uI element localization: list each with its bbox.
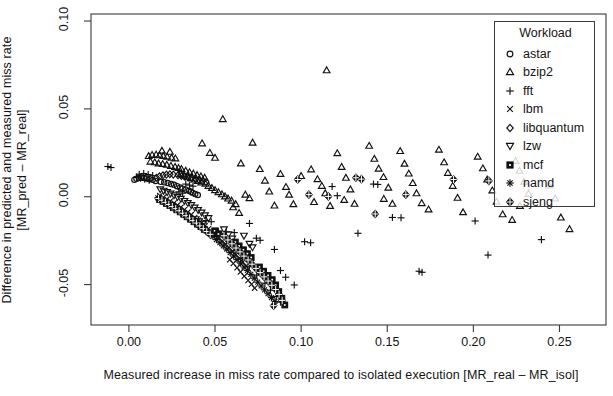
legend-item-label: astar bbox=[523, 47, 551, 61]
data-point bbox=[441, 159, 448, 165]
data-point bbox=[566, 226, 573, 232]
data-point bbox=[252, 285, 257, 290]
data-point bbox=[277, 267, 284, 274]
data-point bbox=[347, 186, 354, 192]
series-sjeng bbox=[155, 174, 492, 309]
diamond-icon bbox=[501, 119, 519, 136]
data-point bbox=[327, 203, 334, 209]
data-point bbox=[385, 184, 392, 190]
data-point bbox=[246, 220, 253, 227]
data-point bbox=[306, 191, 313, 198]
data-point bbox=[375, 165, 382, 171]
data-point bbox=[413, 190, 420, 196]
data-point bbox=[509, 217, 516, 223]
y-tick-label: 0.10 bbox=[47, 12, 81, 30]
data-point bbox=[290, 201, 297, 207]
data-point bbox=[389, 214, 396, 221]
data-point bbox=[334, 192, 341, 199]
data-point bbox=[389, 200, 396, 206]
data-point bbox=[358, 175, 365, 182]
data-point bbox=[308, 166, 315, 172]
data-point bbox=[405, 170, 412, 176]
plus-icon bbox=[501, 82, 519, 99]
legend-title: Workload bbox=[495, 26, 596, 40]
data-point bbox=[311, 199, 318, 205]
legend-item-lbm: lbm bbox=[501, 101, 543, 118]
data-point bbox=[425, 206, 432, 212]
data-point bbox=[449, 182, 456, 188]
data-point bbox=[409, 180, 416, 186]
data-point bbox=[445, 169, 452, 175]
data-point bbox=[351, 200, 358, 206]
data-point bbox=[338, 164, 345, 170]
y-tick-label: 0.00 bbox=[47, 188, 81, 206]
square-dot-icon bbox=[501, 156, 519, 173]
data-point bbox=[241, 233, 248, 239]
y-tick-label-text: 0.10 bbox=[57, 2, 71, 36]
data-point bbox=[249, 245, 256, 251]
y-tick-label-text: 0.00 bbox=[57, 178, 71, 212]
data-point bbox=[538, 236, 545, 243]
x-tick-label: 0.25 bbox=[547, 335, 571, 349]
data-point bbox=[484, 252, 491, 259]
triangle-down-icon bbox=[501, 138, 519, 155]
data-point bbox=[343, 174, 350, 180]
data-point bbox=[398, 214, 405, 221]
scatter-plot-figure: Difference in predicted and measured mis… bbox=[0, 0, 613, 396]
data-point bbox=[206, 149, 213, 155]
data-point bbox=[104, 163, 111, 170]
legend-item-label: lbm bbox=[523, 102, 543, 116]
data-point bbox=[499, 211, 506, 217]
data-point bbox=[380, 174, 387, 180]
data-point bbox=[450, 176, 457, 183]
data-point bbox=[479, 165, 486, 171]
data-point bbox=[249, 139, 256, 145]
data-point bbox=[366, 142, 373, 148]
data-point bbox=[325, 193, 332, 200]
x-tick-label: 0.20 bbox=[461, 335, 485, 349]
data-point bbox=[341, 197, 348, 203]
data-point bbox=[418, 200, 425, 206]
data-point bbox=[256, 166, 263, 172]
data-point bbox=[262, 177, 269, 183]
data-point bbox=[277, 171, 284, 177]
data-point bbox=[291, 281, 298, 288]
data-point bbox=[307, 239, 314, 246]
data-point bbox=[374, 181, 381, 188]
data-point bbox=[372, 210, 379, 217]
legend-item-astar: astar bbox=[501, 45, 551, 62]
data-point bbox=[246, 195, 253, 201]
data-point bbox=[334, 150, 341, 156]
legend-item-label: bzip2 bbox=[523, 65, 553, 79]
y-tick-label-text: 0.05 bbox=[57, 90, 71, 124]
data-point bbox=[159, 147, 166, 153]
data-point bbox=[472, 217, 479, 224]
cross-icon bbox=[501, 101, 519, 118]
data-point bbox=[380, 195, 387, 201]
circle-icon bbox=[501, 45, 519, 62]
y-tick-label-text: -0.05 bbox=[57, 266, 71, 300]
data-point bbox=[454, 194, 461, 200]
data-point bbox=[167, 148, 174, 154]
legend-item-mcf: mcf bbox=[501, 156, 543, 173]
data-point bbox=[436, 146, 443, 152]
data-point bbox=[314, 176, 321, 182]
legend-item-label: mcf bbox=[523, 158, 543, 172]
asterisk-icon bbox=[501, 175, 519, 192]
data-point bbox=[107, 164, 114, 171]
x-tick-label: 0.15 bbox=[375, 335, 399, 349]
legend-item-label: libquantum bbox=[523, 121, 584, 135]
data-point bbox=[460, 209, 467, 215]
legend-item-sjeng: sjeng bbox=[501, 193, 553, 210]
legend-box: Workload astarbzip2fftlbmlibquantumlzwmc… bbox=[494, 21, 595, 207]
data-point bbox=[403, 191, 410, 198]
data-point bbox=[329, 183, 336, 190]
data-point bbox=[236, 210, 243, 216]
legend-item-label: namd bbox=[523, 176, 554, 190]
legend-item-label: sjeng bbox=[523, 195, 553, 209]
x-tick-label: 0.05 bbox=[203, 335, 227, 349]
axis-ticks bbox=[84, 21, 559, 332]
diamond-plus-icon bbox=[501, 193, 519, 210]
data-point bbox=[219, 116, 226, 122]
data-point bbox=[323, 67, 330, 73]
